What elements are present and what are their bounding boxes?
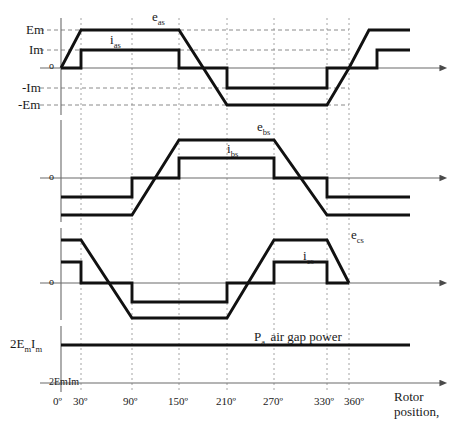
series-label-p-a: Pa, air gap power (254, 330, 342, 346)
axis-label-power-level: 2EmIm (10, 337, 42, 353)
x-tick-360: 360º (344, 396, 364, 407)
waveform-svg (0, 0, 455, 436)
x-tick-30: 30º (73, 396, 87, 407)
x-tick-210: 210º (216, 396, 236, 407)
axis-origin-a: o (49, 61, 54, 71)
x-tick-330: 330º (314, 396, 334, 407)
axis-origin-b: o (49, 172, 54, 182)
x-axis-title-line1: Rotor (394, 390, 439, 405)
axis-origin-c: o (49, 277, 54, 287)
x-tick-270: 270º (263, 396, 283, 407)
series-i-cs (61, 262, 349, 302)
panel-power (40, 326, 440, 392)
axis-label-em-positive: Em (26, 23, 44, 36)
series-label-e-as: eas (152, 10, 165, 26)
panel-phase-c (40, 228, 440, 320)
x-tick-90: 90º (123, 396, 137, 407)
x-tick-0: 0º (53, 396, 62, 407)
axis-label-im-negative: -Im (22, 81, 41, 94)
axis-label-em-negative: -Em (18, 98, 40, 111)
series-i-as (61, 50, 410, 88)
panel-phase-a (40, 18, 440, 115)
x-tick-150: 150º (168, 396, 188, 407)
axis-label-im-positive: Im (29, 43, 43, 56)
x-axis-title-line2: position, (394, 405, 439, 420)
x-axis-title: Rotor position, (394, 390, 439, 420)
series-label-i-as: ias (110, 33, 121, 49)
series-label-i-cs: ics (303, 249, 314, 265)
series-label-e-cs: ecs (351, 228, 364, 244)
series-label-e-bs: ebs (257, 120, 270, 136)
axis-origin-power: 2EmIm (49, 377, 79, 387)
waveform-figure: Em Im o -Im -Em eas ias o ebs ibs o ecs … (0, 0, 455, 436)
series-label-i-bs: ibs (227, 142, 238, 158)
panel-phase-b (40, 120, 440, 222)
